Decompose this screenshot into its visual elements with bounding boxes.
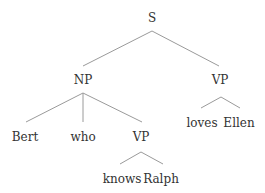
leaf-ellen: Ellen xyxy=(223,117,254,129)
leaf-ralph: Ralph xyxy=(143,173,179,185)
node-VP-main: VP xyxy=(212,74,229,86)
edge-VP1-loves xyxy=(201,97,221,108)
tree-edges xyxy=(0,0,265,193)
leaf-knows: knows xyxy=(103,173,142,185)
edge-NP-VP2 xyxy=(83,93,142,122)
leaf-bert: Bert xyxy=(12,131,38,143)
edge-VP2-Ralph xyxy=(141,152,163,164)
edge-VP2-knows xyxy=(120,152,141,164)
leaf-who: who xyxy=(70,131,95,143)
edge-S-VP1 xyxy=(152,31,219,66)
leaf-loves: loves xyxy=(186,117,217,129)
edge-S-NP xyxy=(83,31,152,66)
syntax-tree-diagram: S NP VP Bert who VP loves Ellen knows Ra… xyxy=(0,0,265,193)
edge-VP1-Ellen xyxy=(221,97,240,108)
node-NP: NP xyxy=(74,74,93,86)
edge-NP-Bert xyxy=(26,93,83,122)
node-VP-relative: VP xyxy=(133,131,150,143)
node-S: S xyxy=(148,12,156,24)
